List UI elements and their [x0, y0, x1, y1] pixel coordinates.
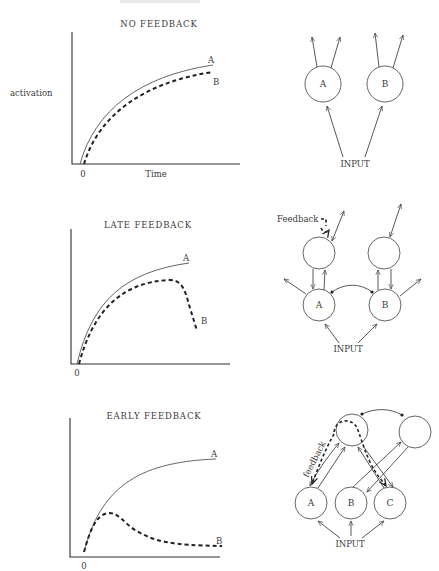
- feedback-label: Feedback: [277, 214, 319, 224]
- input-arrow: [325, 324, 339, 343]
- network-late-feedback: A B Feedback INPUT: [277, 204, 421, 354]
- panel-early-feedback: EARLY FEEDBACK 0 A B A B C: [70, 410, 431, 571]
- y-axis-label: activation: [10, 88, 53, 98]
- axes: [71, 229, 230, 364]
- node-a-label: A: [307, 498, 315, 508]
- link-endpoint: [400, 413, 403, 416]
- chart-title: LATE FEEDBACK: [104, 220, 192, 230]
- output-arrow: [400, 279, 421, 296]
- link-endpoint: [370, 290, 373, 293]
- panel-late-feedback: LATE FEEDBACK 0 A B A B: [71, 204, 421, 378]
- output-arrow: [284, 279, 306, 294]
- curve-a: [80, 65, 213, 164]
- chart-title: EARLY FEEDBACK: [106, 411, 201, 421]
- curve-b-label: B: [216, 536, 222, 546]
- output-arrow: [331, 37, 340, 68]
- node-c-label: C: [387, 498, 394, 508]
- curve-a: [84, 459, 216, 552]
- node-a-label: A: [315, 300, 323, 310]
- input-label: INPUT: [335, 539, 365, 549]
- node-top-right: [368, 237, 400, 269]
- feedback-label: feedback: [301, 439, 328, 479]
- x-axis-label: Time: [145, 169, 166, 179]
- inhibitory-link: [332, 285, 372, 292]
- origin-tick: 0: [80, 169, 85, 179]
- input-arrow: [358, 324, 377, 343]
- curve-a: [77, 263, 189, 364]
- output-arrow: [393, 35, 403, 68]
- curve-b-label: B: [201, 316, 207, 326]
- input-label: INPUT: [333, 344, 363, 354]
- input-arrow: [365, 106, 382, 157]
- input-label: INPUT: [340, 159, 370, 169]
- link-endpoint: [360, 412, 363, 415]
- node-a-label: A: [319, 79, 327, 89]
- figure: NO FEEDBACK activation 0 Time A B A B IN…: [0, 0, 439, 571]
- curve-b: [79, 280, 197, 364]
- curve-b: [84, 513, 222, 552]
- node-b-label: B: [348, 498, 355, 508]
- bidirectional-arrow: [332, 211, 344, 241]
- up-arrow: [358, 447, 384, 488]
- chart-late-feedback: LATE FEEDBACK 0 A B: [71, 220, 230, 378]
- chart-no-feedback: NO FEEDBACK activation 0 Time A B: [10, 19, 240, 179]
- node-b-label: B: [382, 300, 389, 310]
- input-arrow: [327, 106, 343, 157]
- network-early-feedback: A B C feedback INPUT: [295, 410, 431, 549]
- output-arrow: [312, 37, 317, 67]
- chart-title: NO FEEDBACK: [120, 19, 197, 29]
- axes: [72, 32, 240, 164]
- input-arrow: [318, 521, 340, 538]
- node-top-left: [303, 237, 335, 269]
- down-arrow: [367, 447, 408, 492]
- node-top-right: [399, 416, 431, 448]
- inhibitory-link: [362, 410, 402, 415]
- curve-a-label: A: [210, 449, 218, 459]
- down-arrow: [363, 446, 393, 487]
- feedback-arrow: [321, 219, 329, 232]
- bidirectional-arrow: [390, 204, 401, 237]
- node-top-left: [336, 414, 368, 446]
- curve-b-label: B: [213, 77, 219, 87]
- output-arrow: [375, 33, 379, 67]
- node-b-label: B: [382, 79, 389, 89]
- link-endpoint: [330, 290, 333, 293]
- chart-early-feedback: EARLY FEEDBACK 0 A B: [70, 411, 222, 571]
- input-arrow: [362, 521, 384, 538]
- panel-no-feedback: NO FEEDBACK activation 0 Time A B A B IN…: [10, 19, 403, 179]
- curve-a-label: A: [182, 253, 190, 263]
- network-no-feedback: A B INPUT: [305, 33, 403, 169]
- curve-a-label: A: [207, 55, 215, 65]
- up-arrow: [324, 270, 325, 290]
- origin-tick: 0: [81, 561, 86, 571]
- origin-tick: 0: [74, 368, 79, 378]
